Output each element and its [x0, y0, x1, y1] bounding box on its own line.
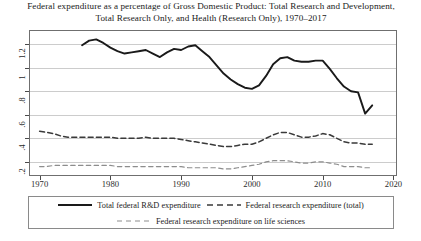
xtick-label-4: 2010 — [314, 179, 331, 189]
xtick-label-5: 2020 — [385, 179, 402, 189]
plot-svg — [29, 30, 397, 176]
legend-entry-life-sciences: Federal research expenditure on life sci… — [117, 217, 305, 226]
xtick-label-1: 1980 — [102, 179, 119, 189]
ytick-mark-4 — [25, 68, 29, 69]
ytick-label-1: .4 — [18, 137, 27, 159]
ytick-label-2: .6 — [18, 113, 27, 135]
series-lines — [40, 39, 373, 169]
legend-label-life-sciences: Federal research expenditure on life sci… — [156, 217, 305, 226]
chart-legend: Total federal R&D expenditure Federal re… — [28, 196, 394, 229]
ytick-label-5: 1.2 — [18, 43, 27, 65]
series-line-1 — [40, 131, 373, 146]
xtick-label-0: 1970 — [31, 179, 48, 189]
ytick-label-3: .8 — [18, 90, 27, 112]
plot-area — [29, 30, 397, 176]
ytick-mark-1 — [25, 138, 29, 139]
xtick-label-2: 1990 — [173, 179, 190, 189]
xtick-mark-5 — [393, 176, 394, 180]
xtick-mark-1 — [110, 176, 111, 180]
series-line-2 — [40, 161, 373, 169]
legend-row-secondary: Federal research expenditure on life sci… — [29, 213, 393, 229]
legend-entry-total-rd: Total federal R&D expenditure — [58, 201, 200, 210]
legend-label-total-rd: Total federal R&D expenditure — [97, 201, 200, 210]
xtick-mark-4 — [323, 176, 324, 180]
xtick-mark-3 — [252, 176, 253, 180]
legend-swatch-dashed-light-icon — [117, 218, 151, 224]
xtick-mark-2 — [181, 176, 182, 180]
legend-label-research-total: Federal research expenditure (total) — [246, 201, 364, 210]
chart-title: Federal expenditure as a percentage of G… — [22, 1, 400, 24]
ytick-mark-5 — [25, 44, 29, 45]
ytick-mark-2 — [25, 115, 29, 116]
xtick-mark-0 — [40, 176, 41, 180]
legend-entry-research-total: Federal research expenditure (total) — [207, 201, 364, 210]
ytick-mark-0 — [25, 162, 29, 163]
plot-frame — [30, 31, 397, 176]
legend-row-primary: Total federal R&D expenditure Federal re… — [29, 197, 393, 213]
series-line-0 — [82, 39, 372, 113]
legend-swatch-solid-icon — [58, 202, 92, 208]
legend-swatch-dashed-icon — [207, 202, 241, 208]
xtick-label-3: 2000 — [243, 179, 260, 189]
chart-figure: Federal expenditure as a percentage of G… — [0, 0, 421, 241]
ytick-label-4: 1 — [18, 66, 27, 88]
ytick-mark-3 — [25, 91, 29, 92]
ytick-label-0: .2 — [18, 160, 27, 182]
